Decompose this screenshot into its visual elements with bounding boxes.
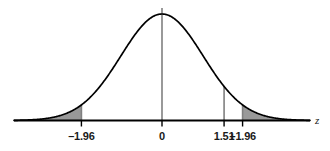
- axis-ticks-group: [81, 121, 242, 127]
- normal-curve-figure: –1.96 0 1.51 +1.96 z: [0, 0, 330, 151]
- tick-label-zero: 0: [159, 130, 165, 142]
- reference-lines-group: [81, 8, 242, 121]
- tick-label-minus-1-96: –1.96: [68, 130, 95, 142]
- x-axis-label-z: z: [315, 114, 319, 126]
- normal-distribution-chart: [0, 0, 330, 151]
- tick-label-plus-1-96: +1.96: [229, 130, 256, 142]
